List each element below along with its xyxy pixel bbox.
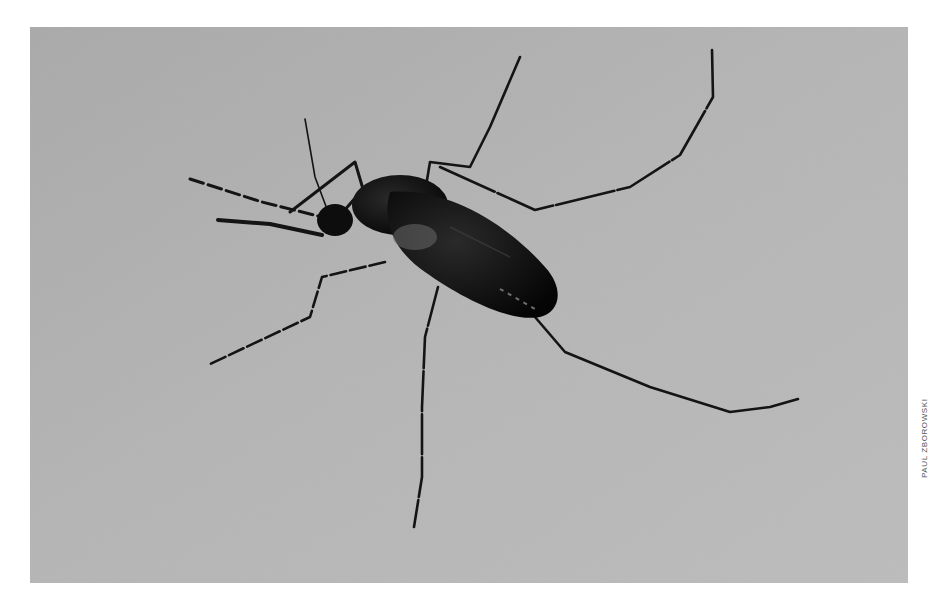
photograph [30, 27, 908, 583]
mosquito-photo [30, 27, 908, 583]
photo-credit: PAUL ZBOROWSKI [920, 398, 929, 478]
